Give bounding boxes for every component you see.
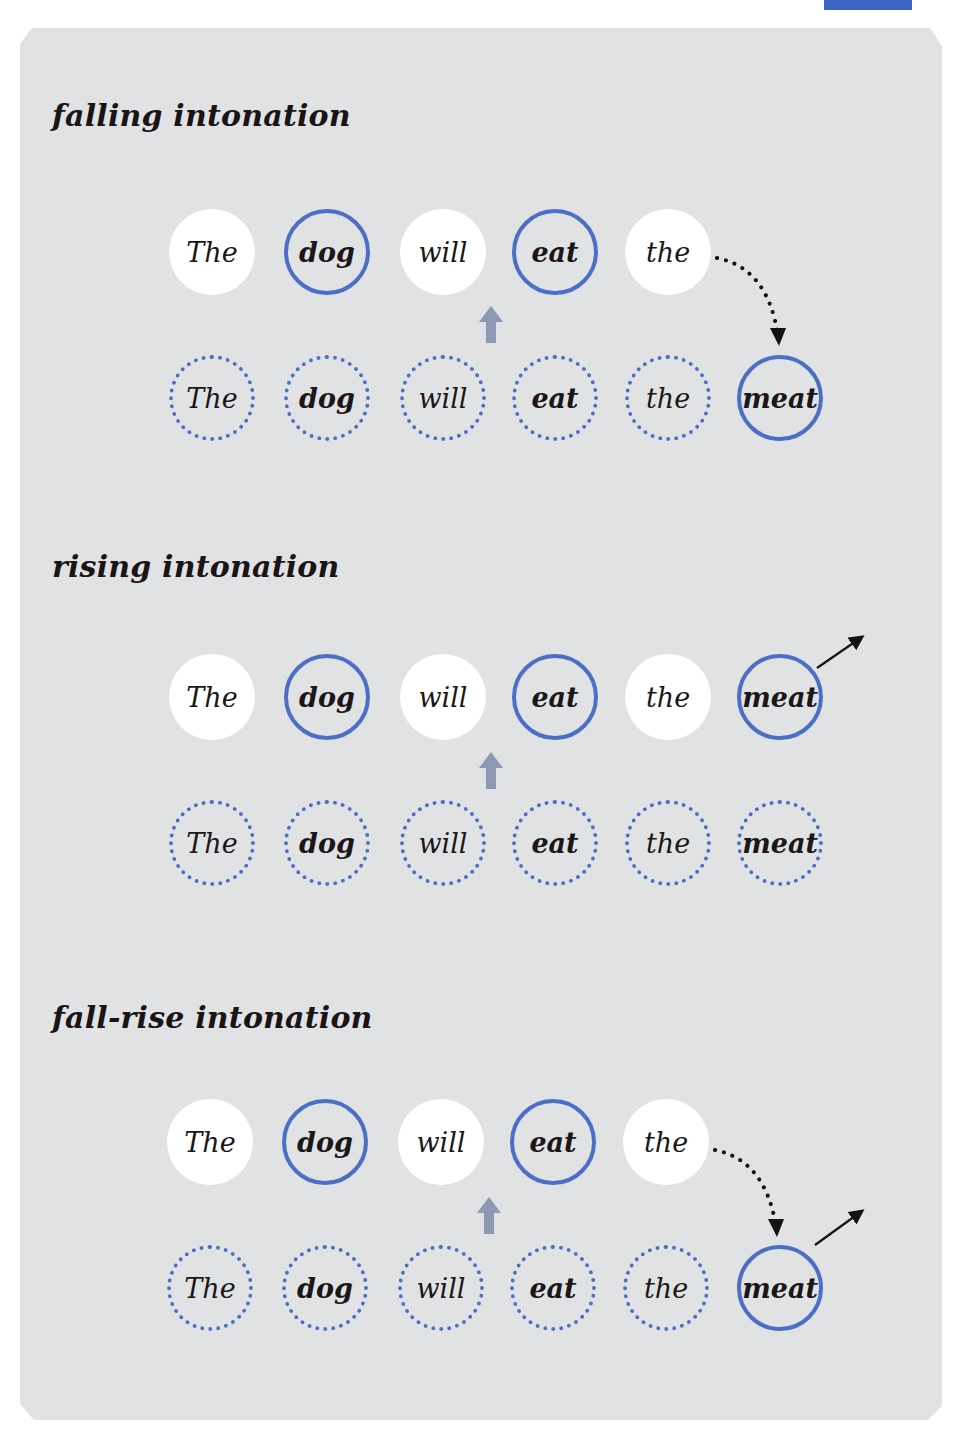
arrows-overlay (0, 0, 968, 1437)
falling-curve-arrow-icon (717, 258, 786, 346)
stress-shift-up-arrow-icon (479, 752, 503, 789)
rising-arrow-icon (815, 1211, 862, 1245)
stress-shift-up-arrow-icon (479, 306, 503, 343)
falling-curve-arrow-icon (715, 1150, 784, 1237)
rising-arrow-icon (817, 637, 862, 668)
stress-shift-up-arrow-icon (477, 1197, 501, 1234)
